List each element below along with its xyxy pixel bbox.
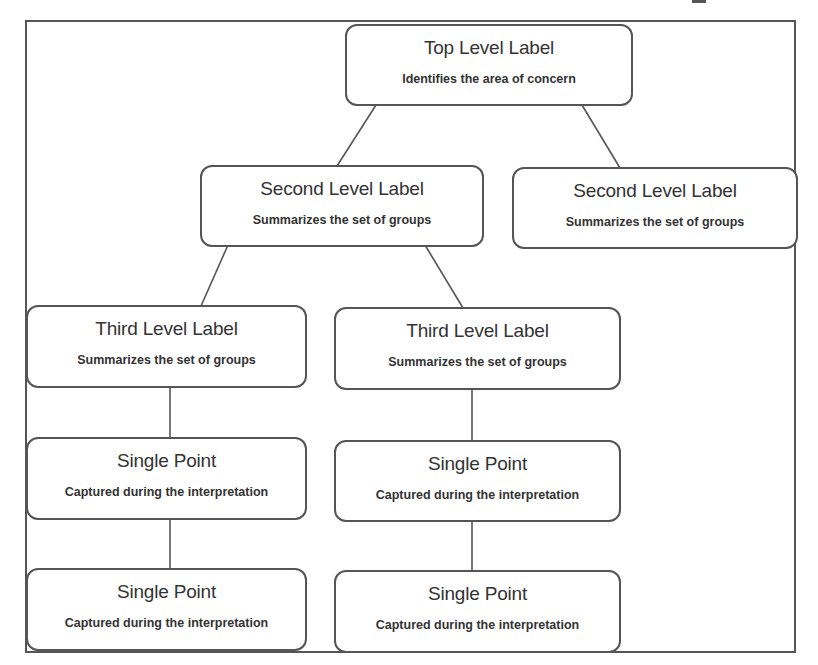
node-subtitle: Captured during the interpretation	[28, 485, 305, 499]
node-title: Single Point	[28, 581, 305, 603]
edge-second-left-third-left	[201, 245, 228, 306]
node-title: Third Level Label	[28, 318, 305, 340]
node-subtitle: Captured during the interpretation	[336, 618, 619, 632]
node-single-point-right-1: Single Point Captured during the interpr…	[334, 440, 621, 522]
node-title: Single Point	[336, 453, 619, 475]
edge-top-second-left	[337, 105, 376, 166]
node-second-level-left: Second Level Label Summarizes the set of…	[200, 165, 484, 247]
node-top-level: Top Level Label Identifies the area of c…	[345, 24, 633, 106]
node-single-point-left-2: Single Point Captured during the interpr…	[26, 568, 307, 651]
node-third-level-right: Third Level Label Summarizes the set of …	[334, 307, 621, 390]
node-title: Second Level Label	[202, 178, 482, 200]
node-title: Second Level Label	[514, 180, 796, 202]
node-single-point-left-1: Single Point Captured during the interpr…	[26, 437, 307, 520]
node-subtitle: Captured during the interpretation	[336, 488, 619, 502]
node-title: Third Level Label	[336, 320, 619, 342]
node-subtitle: Summarizes the set of groups	[28, 353, 305, 367]
node-subtitle: Summarizes the set of groups	[336, 355, 619, 369]
node-title: Top Level Label	[347, 37, 631, 59]
node-second-level-right: Second Level Label Summarizes the set of…	[512, 167, 798, 249]
node-subtitle: Summarizes the set of groups	[202, 213, 482, 227]
edge-second-left-third-right	[425, 245, 463, 308]
node-single-point-right-2: Single Point Captured during the interpr…	[334, 570, 621, 653]
node-title: Single Point	[336, 583, 619, 605]
node-subtitle: Captured during the interpretation	[28, 616, 305, 630]
node-subtitle: Summarizes the set of groups	[514, 215, 796, 229]
edge-top-second-right	[582, 105, 620, 168]
node-subtitle: Identifies the area of concern	[347, 72, 631, 86]
node-third-level-left: Third Level Label Summarizes the set of …	[26, 305, 307, 388]
node-title: Single Point	[28, 450, 305, 472]
